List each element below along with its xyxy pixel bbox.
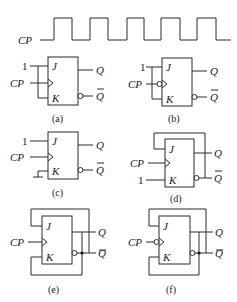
pin-k: K [51, 165, 60, 177]
circuit-e: J CP K Q Q (e) [10, 209, 106, 296]
pin-q: Q [96, 64, 104, 76]
input-one: 1 [22, 60, 28, 72]
caption-e: (e) [48, 284, 59, 296]
inversion-bubble-icon [190, 251, 195, 256]
cp-label: CP [130, 157, 144, 169]
cp-waveform: CP [18, 18, 231, 46]
input-one: 1 [22, 135, 28, 147]
inversion-bubble-icon [154, 240, 159, 245]
circuit-a: 1 CP J K Q Q (a) [10, 57, 104, 125]
pin-qbar: Q [96, 164, 104, 176]
caption-a: (a) [52, 113, 63, 125]
pin-q: Q [96, 139, 104, 151]
junction-dot-icon [197, 251, 200, 254]
inversion-bubble-icon [157, 82, 162, 87]
cp-label: CP [128, 78, 142, 90]
pin-qbar: Q [96, 90, 104, 102]
inversion-bubble-icon [72, 251, 77, 256]
pin-q: Q [214, 147, 222, 159]
inversion-bubble-icon [78, 94, 83, 99]
input-one: 1 [138, 174, 144, 186]
pin-k: K [51, 92, 60, 104]
jk-flipflop-diagram: CP 1 CP J K Q Q (a) 1 CP J K Q [0, 0, 237, 302]
inversion-bubble-icon [78, 168, 83, 173]
pin-qbar: Q [215, 247, 223, 259]
pin-qbar: Q [214, 172, 222, 184]
clock-signal [40, 18, 231, 40]
pin-q: Q [215, 226, 223, 238]
circuit-b: 1 CP J K Q Q (b) [128, 58, 218, 125]
pin-q: Q [210, 65, 218, 77]
pin-qbar: Q [98, 247, 106, 259]
junction-dot-icon [80, 251, 83, 254]
pin-q: Q [98, 226, 106, 238]
circuit-f: J CP K Q Q (f) [128, 209, 223, 296]
circuit-d: J CP 1 K Q Q (d) [130, 133, 222, 205]
pin-k: K [162, 251, 171, 263]
waveform-label: CP [18, 34, 32, 46]
input-one: 1 [140, 61, 146, 73]
caption-f: (f) [166, 284, 176, 296]
caption-b: (b) [168, 113, 180, 125]
pin-k: K [168, 174, 177, 186]
cp-label: CP [10, 236, 24, 248]
cp-label: CP [10, 151, 24, 163]
caption-c: (c) [52, 187, 63, 199]
caption-d: (d) [170, 193, 182, 205]
pin-k: K [45, 251, 54, 263]
pin-k: K [165, 93, 174, 105]
circuit-c: 1 CP J K Q Q (c) [10, 132, 104, 199]
inversion-bubble-icon [194, 176, 199, 181]
inversion-bubble-icon [192, 95, 197, 100]
pin-qbar: Q [210, 91, 218, 103]
cp-label: CP [128, 236, 142, 248]
cp-label: CP [10, 77, 24, 89]
